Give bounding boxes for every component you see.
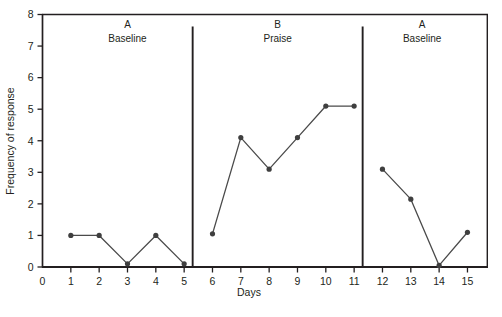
x-tick-label: 14 <box>433 275 445 287</box>
data-point-marker <box>465 230 470 235</box>
single-case-design-line-chart: 012345678 0123456789101112131415 ABaseli… <box>0 0 502 317</box>
phase-letter: B <box>274 19 281 30</box>
data-point-marker <box>295 135 300 140</box>
data-point-marker <box>125 261 130 266</box>
x-tick-label: 4 <box>153 275 159 287</box>
data-point-marker <box>97 233 102 238</box>
y-axis-title: Frequency of response <box>4 87 16 195</box>
data-point-marker <box>267 167 272 172</box>
phase-letter: A <box>124 19 131 30</box>
x-tick-label: 11 <box>349 275 360 287</box>
chart-figure: 012345678 0123456789101112131415 ABaseli… <box>0 0 502 317</box>
phase-name: Baseline <box>403 33 442 44</box>
x-tick-label: 0 <box>40 275 46 287</box>
x-tick-label: 10 <box>320 275 332 287</box>
x-axis-title: Days <box>237 286 261 298</box>
y-axis-tick-labels: 012345678 <box>28 8 34 273</box>
x-tick-label: 5 <box>181 275 187 287</box>
y-tick-label: 0 <box>28 261 34 273</box>
y-tick-label: 1 <box>28 229 34 241</box>
x-tick-label: 1 <box>68 275 74 287</box>
data-point-marker <box>323 103 328 108</box>
x-tick-label: 12 <box>377 275 389 287</box>
data-point-marker <box>408 197 413 202</box>
x-tick-label: 8 <box>266 275 272 287</box>
x-tick-label: 15 <box>462 275 474 287</box>
data-point-marker <box>182 261 187 266</box>
y-tick-label: 7 <box>28 40 34 52</box>
phase-name: Praise <box>263 33 292 44</box>
x-tick-label: 9 <box>295 275 301 287</box>
data-point-marker <box>437 263 442 268</box>
phase-name: Baseline <box>108 33 147 44</box>
y-tick-label: 4 <box>28 135 34 147</box>
data-point-marker <box>153 233 158 238</box>
y-tick-label: 3 <box>28 166 34 178</box>
x-tick-label: 3 <box>125 275 131 287</box>
y-tick-label: 8 <box>28 8 34 20</box>
y-tick-label: 6 <box>28 71 34 83</box>
data-point-marker <box>210 231 215 236</box>
y-tick-label: 2 <box>28 198 34 210</box>
data-point-marker <box>68 233 73 238</box>
x-tick-label: 6 <box>210 275 216 287</box>
x-tick-label: 13 <box>405 275 417 287</box>
data-point-marker <box>352 103 357 108</box>
data-point-marker <box>380 167 385 172</box>
y-tick-label: 5 <box>28 103 34 115</box>
data-point-marker <box>238 135 243 140</box>
chart-background <box>0 0 502 317</box>
phase-letter: A <box>419 19 426 30</box>
x-tick-label: 2 <box>96 275 102 287</box>
